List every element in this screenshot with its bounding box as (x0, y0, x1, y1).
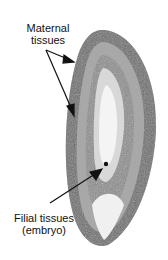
label-filial-tissues: Filial tissues (embryo) (4, 212, 84, 236)
label-line: Maternal (18, 22, 78, 34)
label-line: tissues (18, 34, 78, 46)
label-line: (embryo) (4, 224, 84, 236)
label-line: Filial tissues (4, 212, 84, 224)
label-maternal-tissues: Maternal tissues (18, 22, 78, 46)
